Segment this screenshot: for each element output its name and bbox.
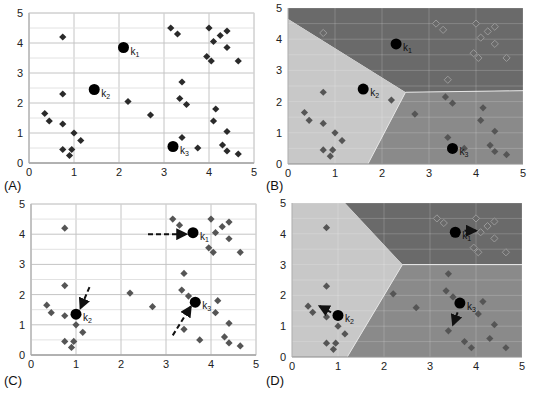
panels: 012345012345k1k2k3012345012345k1k2k30123… (4, 2, 526, 388)
y-tick-label: 2 (276, 96, 282, 108)
y-tick-label: 1 (276, 127, 282, 139)
x-tick-label: 4 (473, 360, 479, 372)
x-tick-label: 5 (253, 358, 259, 370)
data-point (194, 144, 201, 151)
x-tick-label: 3 (161, 166, 167, 178)
kmeans-figure: 012345012345k1k2k3012345012345k1k2k30123… (0, 0, 533, 394)
data-points (41, 24, 242, 159)
data-point (61, 225, 68, 232)
x-tick-label: 2 (116, 166, 122, 178)
centroid-label: k3 (202, 300, 211, 312)
data-point (79, 329, 86, 336)
x-tick-label: 3 (427, 360, 433, 372)
x-tick-label: 0 (285, 167, 291, 179)
chart-panel-c: 012345012345k1k2k3 (19, 198, 259, 370)
data-point (61, 282, 68, 289)
data-point (212, 229, 219, 236)
x-tick-label: 4 (208, 358, 214, 370)
centroid-k3 (447, 143, 458, 154)
data-point (169, 216, 176, 223)
y-tick-label: 3 (17, 67, 23, 79)
data-point (176, 95, 183, 102)
data-point (214, 297, 221, 304)
centroid-k2 (358, 84, 369, 95)
x-tick-label: 3 (163, 358, 169, 370)
centroid-k1 (450, 227, 461, 238)
y-tick-label: 4 (19, 228, 25, 240)
data-point (178, 134, 185, 141)
x-tick-label: 1 (335, 360, 341, 372)
y-tick-label: 4 (276, 33, 282, 45)
x-tick-label: 2 (118, 358, 124, 370)
data-point (207, 216, 214, 223)
panel-label: (A) (4, 178, 21, 193)
data-point (212, 105, 219, 112)
centroid-k2 (89, 84, 100, 95)
panel-label: (D) (266, 373, 284, 388)
data-point (205, 24, 212, 31)
x-tick-label: 1 (332, 167, 338, 179)
y-tick-label: 3 (280, 259, 286, 271)
data-point (219, 223, 226, 230)
centroid-k3 (454, 298, 465, 309)
centroid-move-arrow (173, 307, 191, 336)
data-point (66, 152, 73, 159)
y-tick-label: 4 (17, 37, 23, 49)
y-tick-label: 3 (19, 258, 25, 270)
data-point (70, 129, 77, 136)
y-tick-label: 1 (280, 320, 286, 332)
data-point (217, 32, 224, 39)
data-point (183, 101, 190, 108)
data-point (178, 78, 185, 85)
panel-label: (B) (266, 178, 283, 193)
data-point (43, 302, 50, 309)
x-tick-label: 5 (519, 360, 525, 372)
x-tick-label: 5 (251, 166, 257, 178)
data-point (174, 30, 181, 37)
x-tick-label: 1 (73, 358, 79, 370)
data-point (235, 150, 242, 157)
y-tick-label: 3 (276, 64, 282, 76)
centroid-label: k2 (83, 312, 92, 324)
x-tick-label: 1 (71, 166, 77, 178)
data-point (210, 38, 217, 45)
data-point (196, 336, 203, 343)
x-tick-label: 0 (26, 166, 32, 178)
chart-panel-b: 012345012345k1k2k3 (276, 2, 526, 179)
y-tick-label: 5 (19, 198, 25, 210)
data-point (77, 137, 84, 144)
centroid-k3 (190, 297, 201, 308)
data-point (185, 293, 192, 300)
centroid-label: k1 (131, 46, 140, 58)
x-tick-label: 0 (28, 358, 34, 370)
data-point (68, 344, 75, 351)
data-point (61, 338, 68, 345)
data-point (126, 289, 133, 296)
y-tick-label: 1 (19, 319, 25, 331)
x-tick-label: 3 (426, 167, 432, 179)
y-tick-label: 5 (280, 197, 286, 209)
data-point (72, 321, 79, 328)
centroid-label: k3 (180, 145, 189, 157)
y-tick-label: 2 (280, 289, 286, 301)
centroid-k2 (71, 309, 82, 320)
data-point (225, 320, 232, 327)
data-point (59, 33, 66, 40)
centroid-label: k1 (200, 231, 209, 243)
data-point (176, 222, 183, 229)
data-point (180, 270, 187, 277)
data-point (41, 110, 48, 117)
data-point (225, 235, 232, 242)
y-tick-label: 0 (17, 157, 23, 169)
data-point (223, 44, 230, 51)
centroid-k1 (118, 42, 129, 53)
y-tick-label: 2 (19, 289, 25, 301)
panel-label: (C) (4, 373, 22, 388)
data-point (178, 286, 185, 293)
centroid-move-arrow (81, 287, 90, 308)
centroid-label: k2 (101, 88, 110, 100)
y-tick-label: 1 (17, 127, 23, 139)
y-tick-label: 5 (17, 7, 23, 19)
data-points (43, 216, 244, 352)
x-tick-label: 4 (206, 166, 212, 178)
